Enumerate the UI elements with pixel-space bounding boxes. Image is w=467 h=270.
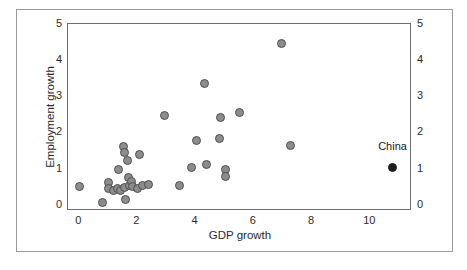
y-tick-label-left: 5 (40, 18, 62, 29)
figure: China GDP growth Employment growth 01234… (0, 0, 467, 270)
scatter-point (175, 181, 184, 190)
y-tick-label-right: 4 (417, 54, 439, 65)
scatter-point (192, 136, 201, 145)
scatter-point (160, 111, 169, 120)
scatter-point (121, 195, 130, 204)
y-tick-label-right: 2 (417, 126, 439, 137)
scatter-point (98, 198, 107, 207)
scatter-point (235, 108, 244, 117)
y-tick-label-left: 0 (40, 199, 62, 210)
scatter-point (215, 134, 224, 143)
x-tick-label: 4 (180, 215, 210, 226)
x-tick-label: 0 (63, 215, 93, 226)
scatter-point (135, 150, 144, 159)
scatter-point (75, 182, 84, 191)
y-axis-label: Employment growth (44, 66, 56, 168)
scatter-point (277, 39, 286, 48)
data-point-annotation: China (378, 140, 407, 152)
y-tick-label-right: 0 (417, 199, 439, 210)
scatter-point (216, 113, 225, 122)
y-tick-label-left: 2 (40, 126, 62, 137)
plot-frame: China GDP growth Employment growth 01234… (67, 23, 411, 210)
y-tick-label-left: 4 (40, 54, 62, 65)
x-tick-label: 2 (121, 215, 151, 226)
scatter-point (286, 141, 295, 150)
plot-area: China (68, 24, 410, 209)
scatter-point (221, 172, 230, 181)
y-tick-label-left: 3 (40, 90, 62, 101)
scatter-point (144, 180, 153, 189)
scatter-point (202, 160, 211, 169)
x-tick-label: 6 (238, 215, 268, 226)
y-tick-label-right: 5 (417, 18, 439, 29)
scatter-point-china (388, 163, 397, 172)
y-tick-label-left: 1 (40, 163, 62, 174)
x-tick-label: 8 (296, 215, 326, 226)
scatter-point (114, 165, 123, 174)
x-tick-label: 10 (354, 215, 384, 226)
scatter-point (123, 156, 132, 165)
y-tick-label-right: 1 (417, 163, 439, 174)
x-axis-label: GDP growth (68, 229, 412, 241)
scatter-point (200, 79, 209, 88)
scatter-point (187, 163, 196, 172)
y-tick-label-right: 3 (417, 90, 439, 101)
